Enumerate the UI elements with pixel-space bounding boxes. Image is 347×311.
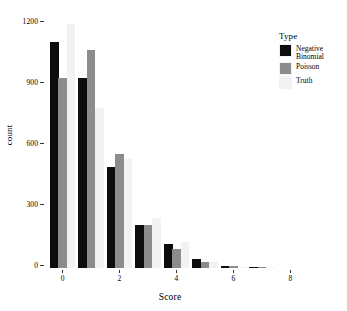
legend-swatch-fill <box>280 77 291 88</box>
legend-swatch-fill <box>280 63 291 74</box>
x-axis-tick-text: 4 <box>161 274 191 283</box>
x-axis-tick-label: 8 <box>275 270 305 283</box>
x-axis-tick-text: 0 <box>48 274 78 283</box>
legend-item: Truth <box>279 76 345 89</box>
legend-entries: Negative BinomialPoissonTruth <box>279 44 345 89</box>
x-axis-tick-text: 2 <box>104 274 134 283</box>
legend-swatch-fill <box>280 45 291 56</box>
x-axis-tick-mark <box>119 270 120 273</box>
legend-swatch <box>279 44 292 57</box>
x-axis-tick-mark <box>290 270 291 273</box>
legend-item: Poisson <box>279 62 345 75</box>
x-axis-tick-text: 8 <box>275 274 305 283</box>
legend-title: Type <box>279 31 345 41</box>
legend-swatch <box>279 62 292 75</box>
legend: Type Negative BinomialPoissonTruth <box>279 31 345 90</box>
x-axis-tick-label: 2 <box>104 270 134 283</box>
x-axis-tick-label: 4 <box>161 270 191 283</box>
chart-canvas: count 03006009001200 02468 Score Type Ne… <box>0 0 347 311</box>
legend-swatch <box>279 76 292 89</box>
x-axis-tick-label: 6 <box>218 270 248 283</box>
x-axis-tick-mark <box>62 270 63 273</box>
x-axis-title: Score <box>40 292 300 302</box>
legend-item: Negative Binomial <box>279 44 345 61</box>
x-axis-tick-mark <box>233 270 234 273</box>
x-axis-tick-text: 6 <box>218 274 248 283</box>
x-axis-tick-mark <box>176 270 177 273</box>
legend-item-label: Poisson <box>292 62 319 71</box>
legend-item-label: Truth <box>292 76 312 85</box>
legend-item-label: Negative Binomial <box>292 44 324 61</box>
x-axis-tick-label: 0 <box>48 270 78 283</box>
